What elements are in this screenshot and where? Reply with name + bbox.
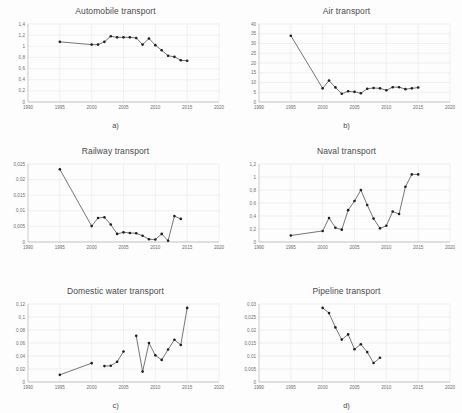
x-tick-label: 2005 bbox=[349, 245, 360, 250]
data-point-marker bbox=[334, 226, 337, 229]
chart-title-b: Air transport bbox=[231, 6, 462, 16]
x-tick-label: 1995 bbox=[286, 105, 297, 110]
y-tick-label: 0 bbox=[253, 240, 256, 245]
y-tick-label: 0,08 bbox=[16, 328, 25, 333]
x-tick-label: 2015 bbox=[413, 385, 424, 390]
x-tick-label: 2015 bbox=[413, 105, 424, 110]
data-point-marker bbox=[167, 239, 170, 242]
data-point-marker bbox=[160, 233, 163, 236]
data-point-marker bbox=[160, 359, 163, 362]
data-point-marker bbox=[340, 338, 343, 341]
data-point-marker bbox=[173, 215, 176, 218]
y-tick-label: 10 bbox=[251, 80, 257, 85]
data-point-marker bbox=[97, 217, 100, 220]
x-tick-label: 1990 bbox=[23, 245, 34, 250]
y-tick-label: 0,6 bbox=[19, 66, 26, 71]
data-point-marker bbox=[404, 88, 407, 91]
data-point-marker bbox=[167, 348, 170, 351]
data-point-marker bbox=[404, 185, 407, 188]
x-tick-label: 1995 bbox=[286, 385, 297, 390]
y-tick-label: 0,01 bbox=[247, 354, 256, 359]
data-point-marker bbox=[59, 168, 62, 171]
plot-d: 00,20,40,60,811,219901995200020052010201… bbox=[231, 158, 462, 258]
data-point-marker bbox=[366, 204, 369, 207]
x-tick-label: 2000 bbox=[318, 245, 329, 250]
y-tick-label: 0,025 bbox=[14, 162, 26, 167]
x-tick-label: 1995 bbox=[55, 245, 66, 250]
chart-svg-d: 00,20,40,60,811,219901995200020052010201… bbox=[231, 158, 462, 258]
x-tick-label: 2020 bbox=[214, 245, 225, 250]
y-tick-label: 1 bbox=[253, 175, 256, 180]
chart-svg-e: 00,020,040,060,080,10,121990199520002005… bbox=[0, 298, 231, 398]
x-tick-label: 1995 bbox=[286, 245, 297, 250]
x-tick-label: 2020 bbox=[214, 105, 225, 110]
data-point-marker bbox=[180, 59, 183, 62]
y-tick-label: 0 bbox=[22, 240, 25, 245]
data-point-marker bbox=[141, 370, 144, 373]
y-tick-label: 35 bbox=[251, 31, 257, 36]
data-point-marker bbox=[135, 335, 138, 338]
data-point-marker bbox=[135, 37, 138, 40]
y-tick-label: 0,8 bbox=[19, 55, 26, 60]
data-point-marker bbox=[167, 54, 170, 57]
x-tick-label: 2000 bbox=[87, 385, 98, 390]
data-point-marker bbox=[372, 87, 375, 90]
chart-svg-f: 00,0050,010,0150,020,0250,03199019952000… bbox=[231, 298, 462, 398]
x-tick-label: 1990 bbox=[23, 105, 34, 110]
chart-svg-a: 00,20,40,60,811,21,419901995200020052010… bbox=[0, 18, 231, 118]
data-point-marker bbox=[90, 225, 93, 228]
chart-panel-d: Naval transport 00,20,40,60,811,21990199… bbox=[231, 140, 462, 280]
y-tick-label: 0,005 bbox=[245, 367, 257, 372]
y-tick-label: 30 bbox=[251, 41, 257, 46]
x-tick-label: 2020 bbox=[445, 385, 456, 390]
x-tick-label: 1990 bbox=[23, 385, 34, 390]
x-tick-label: 1995 bbox=[55, 385, 66, 390]
x-tick-label: 2010 bbox=[150, 385, 161, 390]
x-tick-label: 2005 bbox=[118, 385, 129, 390]
data-point-marker bbox=[321, 307, 324, 310]
x-tick-label: 1990 bbox=[254, 105, 265, 110]
data-point-marker bbox=[360, 92, 363, 95]
y-tick-label: 0 bbox=[253, 380, 256, 385]
data-point-marker bbox=[360, 343, 363, 346]
data-point-marker bbox=[379, 227, 382, 230]
x-tick-label: 2020 bbox=[445, 105, 456, 110]
data-point-marker bbox=[154, 44, 157, 47]
data-point-marker bbox=[334, 326, 337, 329]
data-point-marker bbox=[154, 238, 157, 241]
data-point-marker bbox=[180, 218, 183, 221]
x-tick-label: 2010 bbox=[150, 245, 161, 250]
chart-title-a: Automobile transport bbox=[0, 6, 231, 16]
data-point-marker bbox=[122, 36, 125, 39]
data-point-marker bbox=[109, 35, 112, 38]
x-tick-label: 1990 bbox=[254, 385, 265, 390]
figure-grid: Automobile transport 00,20,40,60,811,21,… bbox=[0, 0, 462, 413]
chart-svg-b: 0510152025303540199019952000200520102015… bbox=[231, 18, 462, 118]
y-tick-label: 0,12 bbox=[16, 302, 25, 307]
data-point-marker bbox=[186, 59, 189, 62]
y-tick-label: 0,01 bbox=[16, 208, 25, 213]
data-point-marker bbox=[321, 87, 324, 90]
data-point-marker bbox=[148, 37, 151, 40]
plot-c: 00,0050,010,0150,020,0251990199520002005… bbox=[0, 158, 231, 258]
y-tick-label: 0 bbox=[253, 100, 256, 105]
y-tick-label: 5 bbox=[253, 90, 256, 95]
series-line bbox=[60, 169, 181, 240]
y-tick-label: 1,2 bbox=[250, 162, 257, 167]
data-point-marker bbox=[328, 312, 331, 315]
data-point-marker bbox=[90, 43, 93, 46]
data-point-marker bbox=[59, 41, 62, 44]
chart-panel-e: Domestic water transport 00,020,040,060,… bbox=[0, 280, 231, 413]
data-point-marker bbox=[340, 228, 343, 231]
data-point-marker bbox=[141, 43, 144, 46]
chart-title-f: Pipeline transport bbox=[231, 286, 462, 296]
chart-caption-b: b) bbox=[231, 121, 462, 130]
data-point-marker bbox=[173, 338, 176, 341]
x-tick-label: 2020 bbox=[445, 245, 456, 250]
data-point-marker bbox=[321, 230, 324, 233]
x-tick-label: 2000 bbox=[318, 105, 329, 110]
data-point-marker bbox=[411, 173, 414, 176]
data-point-marker bbox=[334, 86, 337, 89]
data-point-marker bbox=[411, 87, 414, 90]
x-tick-label: 2010 bbox=[381, 105, 392, 110]
